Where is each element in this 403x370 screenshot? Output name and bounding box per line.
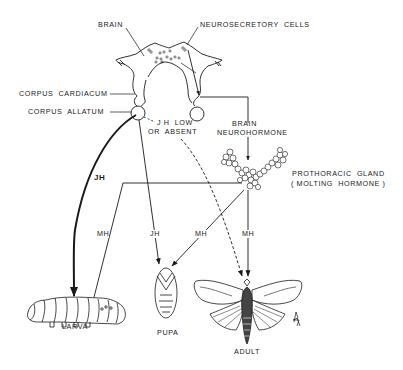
label-pupa: PUPA xyxy=(157,329,178,337)
label-neurosecretory-cells: NEUROSECRETORY CELLS xyxy=(200,21,310,29)
label-jh-main: JH xyxy=(94,174,105,182)
label-or-absent: OR ABSENT xyxy=(148,128,197,136)
label-larva: LARVA xyxy=(62,323,88,331)
label-corpus-allatum: CORPUS ALLATUM xyxy=(28,108,104,116)
label-jh-pupa: JH xyxy=(150,230,160,238)
label-mh-adult: MH xyxy=(242,230,254,238)
adult-moth-illustration xyxy=(194,279,302,344)
label-adult: ADULT xyxy=(234,348,260,356)
pupa-illustration xyxy=(155,268,177,318)
hormone-diagram: BRAIN NEUROSECRETORY CELLS CORPUS CARDIA… xyxy=(0,0,403,370)
label-mh-larva: MH xyxy=(97,230,109,238)
label-brain-neurohormone-2: NEUROHORMONE xyxy=(217,129,288,137)
mh-to-pupa-arrow xyxy=(172,190,244,266)
jh-to-larva-arrow xyxy=(74,115,136,296)
brain-illustration xyxy=(116,42,222,121)
leader-lines xyxy=(110,27,198,112)
label-mh-pupa: MH xyxy=(195,230,207,238)
neurosecretory-axon-arrow xyxy=(188,50,199,95)
label-molting-hormone: ( MOLTING HORMONE ) xyxy=(291,180,386,188)
label-corpus-cardiacum: CORPUS CARDIACUM xyxy=(19,90,107,98)
artist-signature-icon xyxy=(293,312,300,326)
label-brain: BRAIN xyxy=(98,21,123,29)
label-prothoracic-gland: PROTHORACIC GLAND xyxy=(292,170,385,178)
neurosecretory-cells-dots xyxy=(148,47,186,63)
jh-to-pupa-arrow xyxy=(139,120,159,264)
label-jh-low: J H LOW xyxy=(157,119,193,127)
larva-illustration xyxy=(26,86,125,327)
label-brain-neurohormone-1: BRAIN xyxy=(232,120,257,128)
